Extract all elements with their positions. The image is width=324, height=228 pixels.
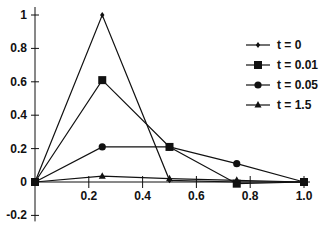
x-tick-label: 0.4 bbox=[134, 189, 151, 203]
diamond-marker bbox=[256, 42, 260, 48]
legend-item: t = 0.05 bbox=[246, 78, 318, 92]
x-tick-label: 0.2 bbox=[80, 189, 97, 203]
series-1 bbox=[31, 76, 308, 188]
circle-marker bbox=[166, 143, 173, 150]
circle-marker bbox=[254, 81, 261, 88]
line-chart: 10.80.60.40.20-0.20.20.40.60.81.0 t = 0t… bbox=[0, 0, 324, 228]
square-marker bbox=[98, 76, 106, 84]
legend: t = 0t = 0.01t = 0.05t = 1.5 bbox=[246, 38, 318, 112]
diamond-marker bbox=[100, 12, 104, 18]
y-tick-label: 1 bbox=[20, 8, 27, 22]
legend-item: t = 0 bbox=[246, 38, 302, 52]
x-tick-label: 0.8 bbox=[242, 189, 259, 203]
legend-label: t = 0.01 bbox=[277, 58, 318, 72]
legend-item: t = 0.01 bbox=[246, 58, 318, 72]
y-tick-label: 0.2 bbox=[10, 142, 27, 156]
circle-marker bbox=[99, 143, 106, 150]
x-tick-label: 0.6 bbox=[188, 189, 205, 203]
y-tick-label: 0.8 bbox=[10, 41, 27, 55]
axes: 10.80.60.40.20-0.20.20.40.60.81.0 bbox=[6, 7, 312, 222]
legend-label: t = 0.05 bbox=[277, 78, 318, 92]
triangle-marker bbox=[99, 172, 106, 179]
x-tick-label: 1.0 bbox=[296, 189, 313, 203]
y-tick-label: 0 bbox=[20, 175, 27, 189]
triangle-marker bbox=[233, 176, 240, 183]
series-line bbox=[35, 80, 304, 184]
series-0 bbox=[33, 12, 306, 185]
legend-label: t = 1.5 bbox=[277, 98, 312, 112]
triangle-marker bbox=[255, 101, 262, 108]
series-group bbox=[31, 12, 308, 188]
y-tick-label: 0.4 bbox=[10, 108, 27, 122]
series-line bbox=[35, 15, 304, 182]
y-tick-label: -0.2 bbox=[6, 208, 27, 222]
circle-marker bbox=[233, 160, 240, 167]
legend-item: t = 1.5 bbox=[246, 98, 312, 112]
y-tick-label: 0.6 bbox=[10, 75, 27, 89]
square-marker bbox=[254, 61, 262, 69]
legend-label: t = 0 bbox=[277, 38, 302, 52]
